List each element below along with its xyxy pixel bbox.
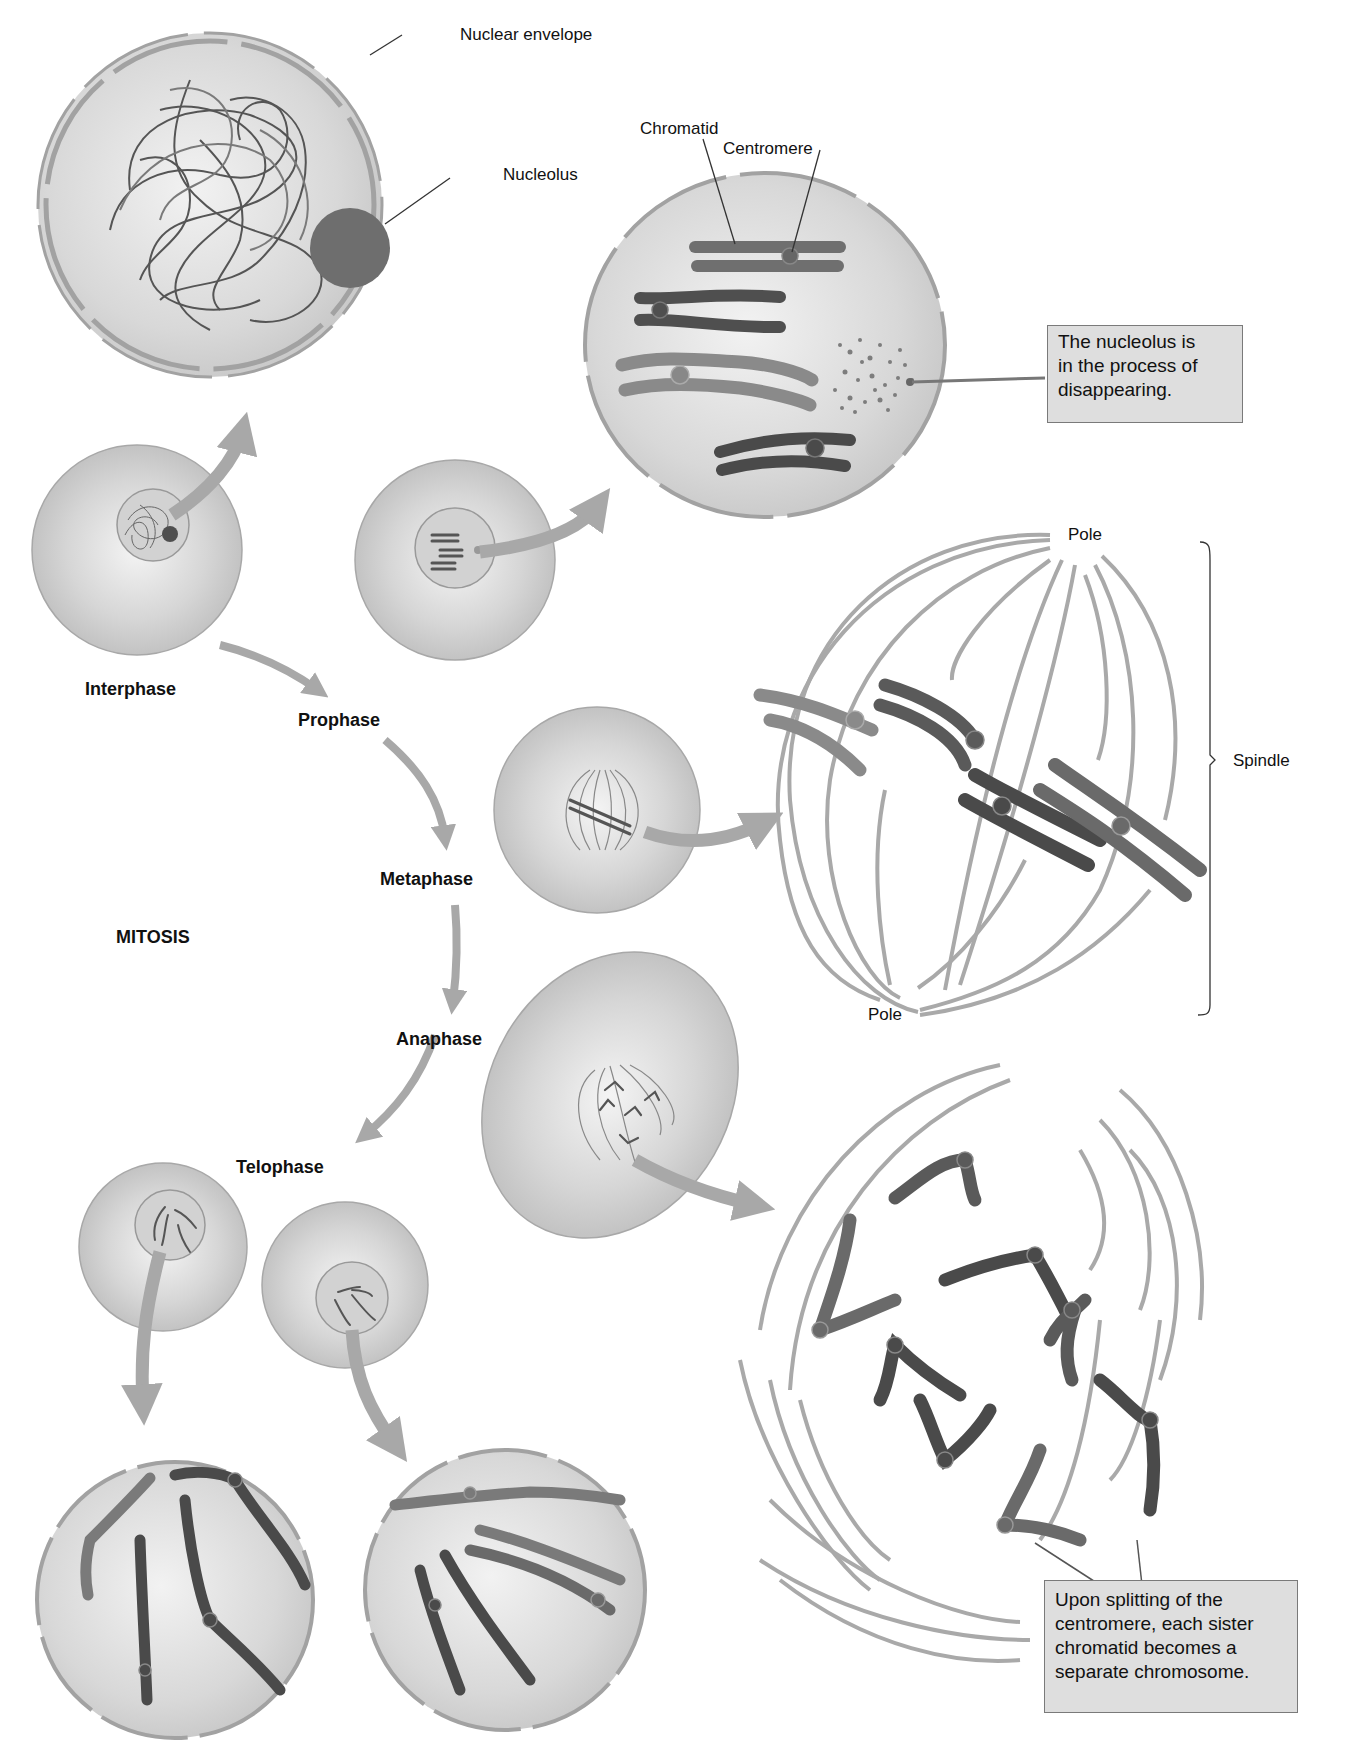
phase-label-telophase: Telophase <box>236 1158 324 1176</box>
label-centromere: Centromere <box>723 140 813 157</box>
prophase-cell <box>355 460 555 660</box>
nuclear-envelope-leader-line <box>370 35 402 55</box>
callout-line: The nucleolus is <box>1058 330 1232 354</box>
callout-line: in the process of <box>1058 354 1232 378</box>
label-spindle: Spindle <box>1233 752 1290 769</box>
spindle-bracket <box>1198 542 1215 1015</box>
callout-leader-2 <box>1137 1540 1142 1585</box>
telophase-nucleus-right <box>365 1450 645 1730</box>
label-pole-bottom: Pole <box>868 1006 902 1023</box>
anaphase-cell <box>431 905 789 1285</box>
prophase-nucleus-enlarged <box>585 173 945 517</box>
callout-line: disappearing. <box>1058 378 1232 402</box>
callout-line: Upon splitting of the <box>1055 1588 1287 1612</box>
label-chromatid: Chromatid <box>640 120 718 137</box>
telophase-nucleus-left <box>37 1462 313 1738</box>
phase-label-anaphase: Anaphase <box>396 1030 482 1048</box>
callout-nucleolus-disappearing: The nucleolus is in the process of disap… <box>1047 325 1243 423</box>
telophase-cell-left <box>79 1163 247 1331</box>
callout-line: centromere, each sister <box>1055 1612 1287 1636</box>
metaphase-cell <box>494 707 700 913</box>
nucleolus-leader-line <box>385 178 450 224</box>
diagram-title-mitosis: MITOSIS <box>116 928 190 946</box>
phase-label-metaphase: Metaphase <box>380 870 473 888</box>
mitosis-diagram <box>0 0 1347 1748</box>
callout-line: separate chromosome. <box>1055 1660 1287 1684</box>
phase-label-prophase: Prophase <box>298 711 380 729</box>
phase-label-interphase: Interphase <box>85 680 176 698</box>
interphase-nucleus-enlarged <box>38 33 390 377</box>
callout-line: chromatid becomes a <box>1055 1636 1287 1660</box>
label-pole-top: Pole <box>1068 526 1102 543</box>
callout-centromere-splitting: Upon splitting of the centromere, each s… <box>1044 1580 1298 1713</box>
label-nucleolus: Nucleolus <box>503 166 578 183</box>
anaphase-chromosomes <box>812 1152 1158 1540</box>
callout-leader-1 <box>1035 1543 1100 1585</box>
telophase-cell-right <box>262 1202 428 1368</box>
label-nuclear-envelope: Nuclear envelope <box>460 26 592 43</box>
